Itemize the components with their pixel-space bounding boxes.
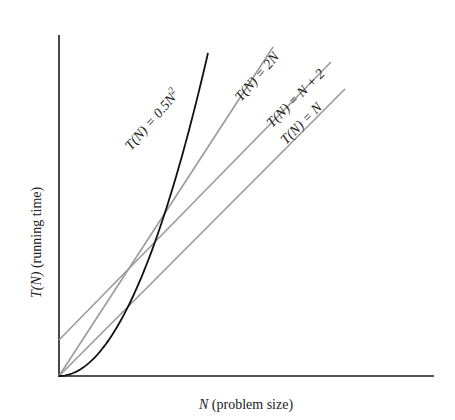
x-axis-label: N (problem size) xyxy=(198,397,293,413)
label-half-n-squared: T(N) = 0.5N2 xyxy=(120,85,183,154)
y-axis-label: T(N) (running time) xyxy=(29,186,45,298)
chart: T(N) = 0.5N2 T(N) = 2N T(N) = N + 2 T(N)… xyxy=(0,0,455,420)
series-curve-half-n-squared xyxy=(59,53,208,376)
label-2n: T(N) = 2N xyxy=(232,49,283,105)
